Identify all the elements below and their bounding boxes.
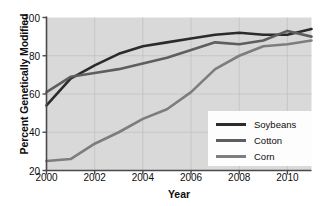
x-axis-tick-labels: 200020022004200620082010 bbox=[0, 172, 325, 188]
chart-figure: 20406080100 200020022004200620082010 Per… bbox=[0, 0, 325, 206]
x-tick-label: 2008 bbox=[228, 172, 250, 183]
x-tick-label: 2000 bbox=[35, 172, 57, 183]
legend-item-corn: Corn bbox=[208, 148, 312, 164]
x-axis-title: Year bbox=[46, 188, 312, 200]
legend-swatch-icon bbox=[216, 123, 246, 126]
x-tick-label: 2004 bbox=[132, 172, 154, 183]
legend-label: Corn bbox=[254, 151, 275, 162]
x-tick-label: 2002 bbox=[84, 172, 106, 183]
y-axis-title: Percent Genetically Modified bbox=[18, 0, 30, 169]
legend-label: Soybeans bbox=[254, 119, 296, 130]
legend-swatch-icon bbox=[216, 155, 246, 158]
legend-swatch-icon bbox=[216, 139, 246, 142]
x-tick-label: 2006 bbox=[180, 172, 202, 183]
x-tick-label: 2010 bbox=[276, 172, 298, 183]
legend-item-soybeans: Soybeans bbox=[208, 116, 312, 132]
legend-item-cotton: Cotton bbox=[208, 132, 312, 148]
chart-legend: SoybeansCottonCorn bbox=[208, 111, 312, 166]
legend-label: Cotton bbox=[254, 135, 282, 146]
